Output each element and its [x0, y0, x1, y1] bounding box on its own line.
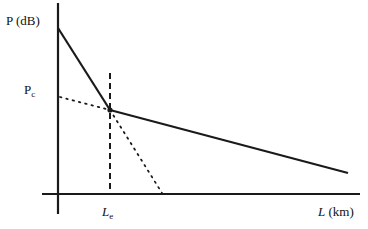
- x-axis-label-unit: (km): [325, 204, 354, 219]
- knee-point: [107, 107, 112, 112]
- pc-label-sub: c: [31, 89, 35, 99]
- steep-solid-segment: [58, 28, 110, 110]
- y-axis-label: P (dB): [6, 14, 40, 27]
- pc-label: Pc: [24, 83, 35, 96]
- le-label-sub: e: [109, 211, 113, 221]
- le-label: Le: [102, 205, 113, 218]
- x-axis-label: L (km): [318, 205, 354, 218]
- shallow-solid-segment: [110, 110, 348, 173]
- power-length-diagram: [0, 0, 368, 229]
- y-axis-label-text: P (dB): [6, 13, 40, 28]
